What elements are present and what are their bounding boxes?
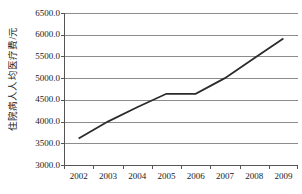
x-tick-mark bbox=[297, 165, 298, 169]
series-polyline bbox=[79, 39, 284, 139]
y-tick-label: 4500.0 bbox=[16, 95, 60, 104]
x-tick-mark bbox=[123, 165, 124, 169]
y-tick-label: 3500.0 bbox=[16, 139, 60, 148]
x-tick-mark bbox=[93, 165, 94, 169]
y-tick-label: 5000.0 bbox=[16, 74, 60, 83]
x-tick-mark bbox=[64, 165, 65, 169]
y-axis-tick-labels: 6500.06000.05500.05000.04500.04000.03500… bbox=[14, 0, 60, 194]
y-tick-label: 3000.0 bbox=[16, 161, 60, 170]
y-tick-label: 4000.0 bbox=[16, 117, 60, 126]
x-tick-label: 2009 bbox=[263, 171, 302, 182]
x-tick-mark bbox=[181, 165, 182, 169]
y-tick-label: 6000.0 bbox=[16, 30, 60, 39]
x-axis-tick-labels: 20022003200420052006200720082009 bbox=[64, 171, 298, 187]
line-chart-figure: 住院病人人均医疗费/元 6500.06000.05500.05000.04500… bbox=[0, 0, 302, 194]
x-tick-mark bbox=[240, 165, 241, 169]
data-series-line bbox=[64, 13, 298, 165]
y-tick-label: 6500.0 bbox=[16, 9, 60, 18]
x-tick-mark bbox=[269, 165, 270, 169]
y-tick-label: 5500.0 bbox=[16, 52, 60, 61]
x-tick-mark bbox=[152, 165, 153, 169]
x-tick-mark bbox=[210, 165, 211, 169]
